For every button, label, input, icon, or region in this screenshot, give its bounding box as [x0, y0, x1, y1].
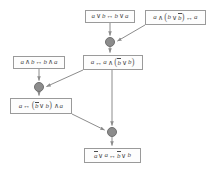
formula-box-a-and-bvnb[interactable]: a∧(b∨b)↔a	[145, 10, 206, 25]
formula-text-f1: a∨b↔b∨a	[91, 13, 128, 20]
formula-text-f2: a∧(b∨b)↔a	[153, 13, 198, 21]
formula-box-nava-nbvb[interactable]: a∨a↔b∨b	[84, 148, 141, 163]
edge-f5-to-m3	[72, 114, 105, 130]
merge-node-bottom[interactable]	[107, 127, 117, 137]
edge-f2-to-m1	[118, 25, 146, 41]
formula-text-f4: a∧b↔b∧a	[20, 59, 57, 66]
formula-text-f5: a↔(b∨b)∧a	[19, 102, 64, 110]
edge-layer	[0, 0, 213, 169]
merge-node-middle[interactable]	[34, 82, 44, 92]
merge-node-top[interactable]	[105, 37, 115, 47]
diagram-canvas: a∨b↔b∨a a∧(b∨b)↔a a∧b↔b∧a a↔a∧(b∨b) a↔(b…	[0, 0, 213, 169]
formula-text-f6: a∨a↔b∨b	[94, 151, 131, 159]
edge-f3-to-m2	[47, 70, 84, 87]
formula-text-f3: a↔a∧(b∨b)	[91, 58, 136, 66]
formula-box-aandb-banda[interactable]: a∧b↔b∧a	[13, 56, 65, 69]
formula-box-a-iff-a-and[interactable]: a↔a∧(b∨b)	[83, 55, 143, 70]
formula-box-a-iff-nbvb-and[interactable]: a↔(b∨b)∧a	[10, 98, 72, 114]
formula-box-avb-bva[interactable]: a∨b↔b∨a	[85, 10, 135, 23]
